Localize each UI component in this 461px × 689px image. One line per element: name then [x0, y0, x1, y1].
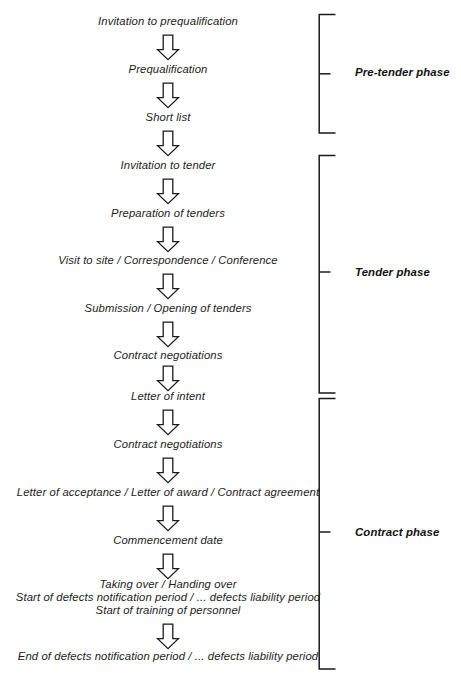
down-block-arrow-icon — [155, 365, 181, 392]
down-block-arrow-icon — [155, 226, 181, 253]
down-block-arrow-icon — [155, 130, 181, 157]
down-block-arrow-icon — [155, 409, 181, 436]
flow-node-taking-over-line-1: Taking over / Handing over — [0, 578, 336, 591]
down-block-arrow-icon — [155, 623, 181, 650]
procurement-phases-flowchart: Invitation to prequalification Prequalif… — [0, 0, 461, 689]
flow-node-commencement-date: Commencement date — [0, 534, 336, 547]
down-block-arrow-icon — [155, 34, 181, 61]
flow-node-prequalification: Prequalification — [0, 63, 336, 76]
phase-label-contract: Contract phase — [355, 526, 439, 538]
flow-node-end-of-defects: End of defects notification period / ...… — [0, 650, 336, 663]
flow-node-visit-to-site: Visit to site / Correspondence / Confere… — [0, 254, 336, 267]
flow-node-letter-of-intent: Letter of intent — [0, 390, 336, 403]
flow-node-contract-negotiations-1: Contract negotiations — [0, 349, 336, 362]
down-block-arrow-icon — [155, 457, 181, 484]
phase-bracket-contract — [316, 396, 350, 672]
flow-node-taking-over-line-2: Start of defects notification period / .… — [0, 591, 336, 604]
flow-node-taking-over: Taking over / Handing over Start of defe… — [0, 578, 336, 617]
phase-label-tender: Tender phase — [355, 266, 430, 278]
phase-bracket-pre-tender — [316, 12, 350, 136]
flow-node-taking-over-line-3: Start of training of personnel — [0, 604, 336, 617]
flow-node-letter-of-acceptance: Letter of acceptance / Letter of award /… — [0, 486, 336, 499]
phase-bracket-tender — [316, 153, 350, 396]
down-block-arrow-icon — [155, 82, 181, 109]
phase-label-pre-tender: Pre-tender phase — [355, 66, 450, 78]
flow-node-submission-opening-of-tenders: Submission / Opening of tenders — [0, 302, 336, 315]
down-block-arrow-icon — [155, 321, 181, 348]
down-block-arrow-icon — [155, 553, 181, 580]
flow-node-invitation-to-tender: Invitation to tender — [0, 159, 336, 172]
flow-node-contract-negotiations-2: Contract negotiations — [0, 438, 336, 451]
down-block-arrow-icon — [155, 273, 181, 300]
down-block-arrow-icon — [155, 178, 181, 205]
flow-node-preparation-of-tenders: Preparation of tenders — [0, 207, 336, 220]
down-block-arrow-icon — [155, 505, 181, 532]
flow-node-invitation-to-prequalification: Invitation to prequalification — [0, 15, 336, 28]
flow-node-short-list: Short list — [0, 111, 336, 124]
